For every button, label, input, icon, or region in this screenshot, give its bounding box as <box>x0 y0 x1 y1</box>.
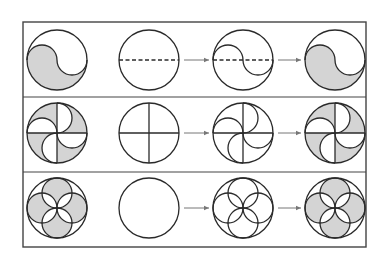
row2-panel2-circle-cross <box>119 103 179 163</box>
row1-panel1-yinyang-shaded <box>27 30 87 90</box>
row3-panel2-blank-circle <box>119 178 179 238</box>
row2-panel3-construction <box>213 103 273 163</box>
row1-panel4-yinyang-shaded <box>305 30 365 90</box>
row1-panel3-construction <box>213 30 273 90</box>
diagram-stage <box>0 0 390 264</box>
row3-panel3-construction <box>213 178 273 238</box>
row1-panel2-dashed-diameter <box>119 30 179 90</box>
diagram-canvas <box>0 0 390 264</box>
row3-panel4-flower-shaded <box>305 178 365 238</box>
row3-panel1-flower-shaded <box>27 178 87 238</box>
row2-panel1-pinwheel-shaded <box>27 103 87 163</box>
row2-panel4-pinwheel-shaded <box>305 103 365 163</box>
